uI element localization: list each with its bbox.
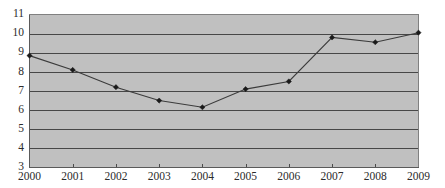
x-axis-tick-label: 2007 [321, 170, 344, 182]
x-axis-tick-label: 2005 [234, 170, 257, 182]
y-axis-tick-label: 9 [18, 45, 24, 57]
y-axis-tick-label: 7 [18, 84, 24, 96]
plot-area-background [30, 15, 419, 168]
y-axis-tick-label: 8 [18, 65, 24, 77]
y-axis-tick-label: 6 [18, 103, 24, 115]
y-axis-tick-label: 4 [18, 141, 24, 153]
x-axis-tick-label: 2001 [61, 170, 84, 182]
x-axis-tick-label: 2000 [18, 170, 41, 182]
x-axis-tick-label: 2008 [364, 170, 387, 182]
y-axis-tick-label: 5 [18, 122, 24, 134]
y-axis-tick-label: 11 [13, 7, 24, 19]
x-axis-tick-label: 2002 [104, 170, 127, 182]
x-axis-tick-label: 2003 [148, 170, 171, 182]
chart-canvas: 11109876543 2000200120022003200420052006… [0, 0, 445, 188]
x-axis-tick-label: 2004 [191, 170, 214, 182]
line-chart: 11109876543 2000200120022003200420052006… [0, 0, 445, 188]
x-axis-tick-label: 2009 [407, 170, 430, 182]
x-axis-tick-label: 2006 [277, 170, 300, 182]
y-axis-tick-label: 10 [13, 26, 25, 38]
